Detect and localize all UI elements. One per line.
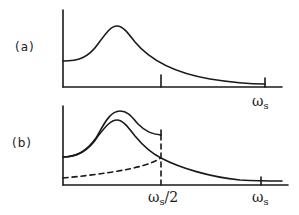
subscript-s: s	[263, 100, 268, 111]
omega-symbol: ω	[148, 189, 159, 205]
half-suffix: /2	[165, 189, 179, 205]
panel-a-plot	[63, 10, 282, 87]
omega-symbol: ω	[252, 189, 263, 205]
panel-a-label: (a)	[15, 41, 35, 53]
subscript-s: s	[263, 196, 268, 207]
panel-b-plot	[63, 106, 288, 185]
panel-a-ws-label: ωs	[252, 94, 269, 111]
panel-a-spectrum-curve	[63, 26, 265, 84]
omega-symbol: ω	[252, 93, 263, 109]
panel-b-original-spectrum-curve	[63, 120, 282, 181]
panel-b-ws-half-label: ωs/2	[148, 190, 178, 207]
panel-b-label: (b)	[12, 137, 32, 149]
panel-b-aliased-spectrum-curve	[63, 111, 161, 157]
panel-b-ws-label: ωs	[252, 190, 269, 207]
panel-b-folded-component-dashed-curve	[63, 158, 161, 178]
